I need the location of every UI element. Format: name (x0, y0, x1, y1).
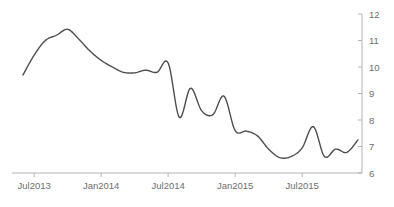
y-axis-tick-label: 12 (369, 9, 380, 20)
x-axis-tick-label: Jul2014 (152, 180, 185, 191)
x-axis-tick-labels: Jul2013Jan2014Jul2014Jan2015Jul2015 (18, 180, 319, 191)
y-axis: 6789101112 (358, 9, 380, 179)
line-chart: 6789101112 Jul2013Jan2014Jul2014Jan2015J… (0, 0, 394, 207)
y-axis-tick-label: 8 (369, 115, 374, 126)
y-axis-tick-labels: 6789101112 (369, 9, 380, 179)
x-axis-tick-label: Jan2014 (83, 180, 119, 191)
x-axis: Jul2013Jan2014Jul2014Jan2015Jul2015 (12, 173, 362, 191)
x-axis-ticks (34, 173, 302, 177)
plot-area (23, 29, 358, 158)
y-axis-tick-label: 9 (369, 88, 374, 99)
x-axis-tick-label: Jan2015 (217, 180, 253, 191)
y-axis-tick-label: 6 (369, 168, 374, 179)
y-axis-tick-label: 7 (369, 141, 374, 152)
y-axis-tick-label: 11 (369, 35, 379, 46)
y-axis-tick-label: 10 (369, 62, 380, 73)
series-line-1 (23, 29, 358, 158)
x-axis-tick-label: Jul2015 (286, 180, 319, 191)
chart-canvas: 6789101112 Jul2013Jan2014Jul2014Jan2015J… (0, 0, 394, 207)
x-axis-tick-label: Jul2013 (18, 180, 51, 191)
y-axis-ticks (358, 14, 362, 173)
